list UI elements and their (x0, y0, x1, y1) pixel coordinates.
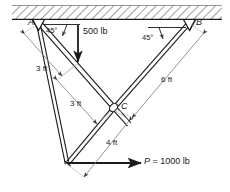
joint-c-pin (108, 102, 119, 113)
force-value-1000lb: 1000 lb (160, 156, 190, 166)
dimension-label-c-to-bottom: 4 ft (106, 139, 117, 147)
dimension-line-c-to-bottom (68, 110, 129, 177)
dimension-label-load-to-c: 3 ft (70, 100, 81, 108)
pin-support-icon-a (33, 20, 45, 31)
point-label-c: C (121, 102, 128, 111)
member-c-to-bottom-vertex (67, 107, 116, 165)
angle-label-left: 45° (46, 27, 57, 35)
force-equals-sign: = (150, 156, 160, 166)
dimension-label-b-to-c: 6 ft (161, 76, 172, 84)
engineering-figure: A B C 45° 45° 500 lb 3 ft 3 ft 6 ft 4 ft… (0, 0, 230, 192)
frame-diagram-svg (0, 0, 230, 192)
angle-label-right: 45° (142, 34, 153, 42)
ground-hatch-icon (12, 6, 222, 20)
point-label-b: B (196, 18, 202, 27)
point-label-a: A (28, 18, 34, 27)
load-label-500lb: 500 lb (83, 27, 108, 36)
force-label-p: P = 1000 lb (144, 157, 190, 166)
dimension-label-a-to-load: 3 ft (36, 65, 47, 73)
dimension-line-b-to-c (116, 24, 203, 118)
